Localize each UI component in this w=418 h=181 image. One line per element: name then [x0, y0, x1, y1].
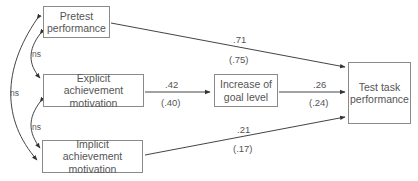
node-label-line2: achievement motivation [44, 84, 143, 109]
node-label-line2: performance [47, 22, 106, 35]
corr-label-pretest-implicit: ns [10, 88, 19, 98]
node-test-task-performance: Test task performance [348, 62, 411, 124]
node-implicit-achievement-motivation: Implicit achievement motivation [42, 140, 143, 173]
node-explicit-achievement-motivation: Explicit achievement motivation [43, 74, 144, 107]
coef-pretest-test: .71 [233, 34, 246, 45]
node-label-line1: Pretest [60, 10, 93, 23]
node-label-line1: Explicit [77, 72, 110, 85]
coef-alt-pretest-test: (.75) [229, 54, 249, 65]
path-pretest-to-test [111, 23, 345, 67]
coef-alt-implicit-test: (.17) [233, 143, 253, 154]
coef-goal-test: .26 [313, 79, 326, 90]
node-label-line2: achievement motivation [43, 150, 142, 175]
coef-explicit-goal: .42 [165, 79, 178, 90]
node-label-line1: Test task [359, 81, 400, 94]
node-pretest-performance: Pretest performance [43, 6, 110, 38]
coef-alt-explicit-goal: (.40) [161, 97, 181, 108]
node-label-line1: Increase of [220, 78, 272, 91]
node-label-line2: performance [350, 93, 409, 106]
node-increase-of-goal-level: Increase of goal level [214, 74, 278, 107]
corr-label-pretest-explicit: ns [32, 49, 41, 59]
node-label-line1: Implicit [76, 138, 109, 151]
node-label-line2: goal level [224, 91, 268, 104]
coef-alt-goal-test: (.24) [309, 97, 329, 108]
coef-implicit-test: .21 [237, 124, 250, 135]
corr-label-explicit-implicit: ns [32, 122, 41, 132]
